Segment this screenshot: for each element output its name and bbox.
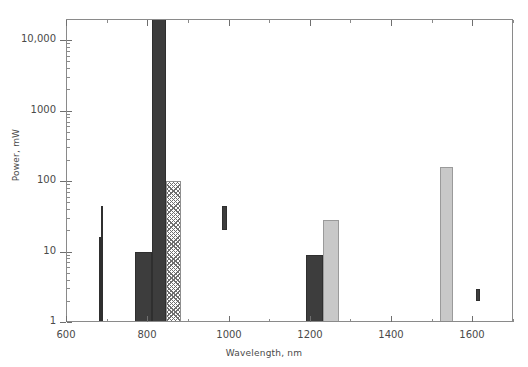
y-tick-label: 10,000 xyxy=(21,34,56,44)
bar-985-997 xyxy=(222,206,227,231)
y-tick-minor xyxy=(67,61,70,62)
x-tick-label: 1600 xyxy=(442,329,502,341)
y-tick-minor xyxy=(67,43,70,44)
y-tick-minor xyxy=(67,147,70,148)
y-tick-inner xyxy=(67,181,72,182)
x-tick-minor-top xyxy=(432,20,433,23)
y-tick-minor xyxy=(67,218,70,219)
y-tick-minor xyxy=(67,47,70,48)
bar-812-845 xyxy=(152,19,165,322)
y-tick-major xyxy=(60,252,66,253)
x-tick-minor xyxy=(188,319,189,322)
x-tick-label: 1400 xyxy=(361,329,421,341)
x-tick-major xyxy=(229,316,230,322)
x-tick-label: 600 xyxy=(36,329,96,341)
y-tick-minor xyxy=(67,77,70,78)
x-tick-major-top xyxy=(147,20,148,26)
y-tick-minor xyxy=(67,267,70,268)
plot-area xyxy=(66,19,513,322)
x-tick-major xyxy=(147,316,148,322)
x-tick-minor-top xyxy=(513,20,514,23)
x-tick-minor-top xyxy=(107,20,108,23)
y-tick-minor xyxy=(67,209,70,210)
y-tick-major xyxy=(60,181,66,182)
bar-845-882 xyxy=(166,181,181,322)
y-tick-minor xyxy=(67,192,70,193)
x-tick-major xyxy=(472,316,473,322)
y-tick-minor xyxy=(67,258,70,259)
y-tick-inner xyxy=(67,40,72,41)
bar-687-high xyxy=(101,206,103,322)
y-tick-label: 10 xyxy=(43,246,56,256)
x-tick-minor xyxy=(269,319,270,322)
x-tick-minor xyxy=(350,319,351,322)
y-tick-minor xyxy=(67,68,70,69)
y-tick-minor xyxy=(67,184,70,185)
y-tick-minor xyxy=(67,114,70,115)
y-tick-major xyxy=(60,40,66,41)
y-tick-minor xyxy=(67,202,70,203)
y-tick-inner xyxy=(67,252,72,253)
bar-1190-1232 xyxy=(306,255,323,322)
x-tick-label: 800 xyxy=(117,329,177,341)
bar-1608-1620 xyxy=(476,289,481,300)
bar-1520-1552 xyxy=(440,167,453,322)
y-tick-label: 1 xyxy=(50,316,56,326)
y-tick-minor xyxy=(67,51,70,52)
x-tick-minor-top xyxy=(269,20,270,23)
y-tick-minor xyxy=(67,132,70,133)
bar-1232-1272 xyxy=(323,220,339,322)
y-tick-minor xyxy=(67,139,70,140)
x-tick-major-top xyxy=(229,20,230,26)
y-tick-minor xyxy=(67,255,70,256)
x-tick-major-top xyxy=(66,20,67,26)
y-tick-minor xyxy=(67,230,70,231)
x-axis-title: Wavelength, nm xyxy=(0,348,528,358)
y-tick-minor xyxy=(67,262,70,263)
y-tick-minor xyxy=(67,117,70,118)
x-tick-major xyxy=(66,316,67,322)
x-tick-minor-top xyxy=(350,20,351,23)
y-tick-major xyxy=(60,111,66,112)
x-tick-major-top xyxy=(472,20,473,26)
y-tick-minor xyxy=(67,280,70,281)
x-tick-minor xyxy=(107,319,108,322)
x-tick-label: 1200 xyxy=(280,329,340,341)
y-tick-minor xyxy=(67,122,70,123)
x-tick-major xyxy=(391,316,392,322)
y-axis-title: Power, mW xyxy=(11,95,21,215)
y-tick-minor xyxy=(67,288,70,289)
y-tick-minor xyxy=(67,19,70,20)
power-wavelength-chart: 110100100010,000 6008001000120014001600 … xyxy=(0,0,528,367)
y-tick-minor xyxy=(67,301,70,302)
y-tick-label: 1000 xyxy=(31,105,56,115)
y-tick-minor xyxy=(67,160,70,161)
y-tick-major xyxy=(60,322,66,323)
y-tick-label: 100 xyxy=(37,175,56,185)
x-tick-major-top xyxy=(391,20,392,26)
x-tick-minor-top xyxy=(188,20,189,23)
y-tick-minor xyxy=(67,126,70,127)
bar-770-810 xyxy=(135,252,152,322)
y-tick-minor xyxy=(67,273,70,274)
y-tick-minor xyxy=(67,56,70,57)
y-tick-minor xyxy=(67,89,70,90)
y-tick-inner xyxy=(67,111,72,112)
x-tick-minor xyxy=(513,319,514,322)
x-tick-minor xyxy=(432,319,433,322)
x-tick-major xyxy=(310,316,311,322)
y-tick-minor xyxy=(67,197,70,198)
x-tick-label: 1000 xyxy=(199,329,259,341)
y-tick-minor xyxy=(67,188,70,189)
y-tick-inner xyxy=(67,322,72,323)
x-tick-major-top xyxy=(310,20,311,26)
